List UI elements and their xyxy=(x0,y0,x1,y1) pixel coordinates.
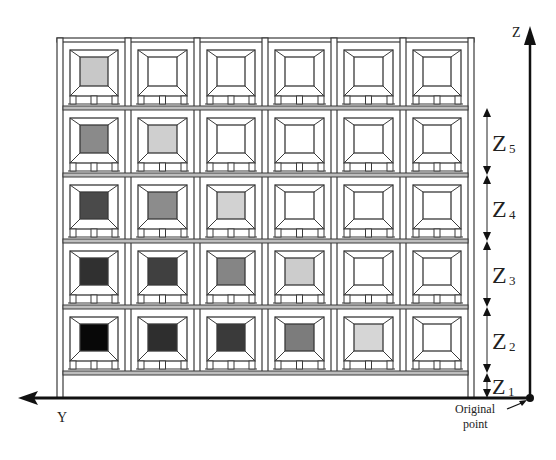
dimension-subscript: 5 xyxy=(509,141,516,156)
storage-rack xyxy=(57,38,474,398)
pallet-load xyxy=(411,317,463,369)
dimension-label: Z xyxy=(492,196,507,222)
rack-post xyxy=(331,38,337,373)
pallet-load xyxy=(205,50,257,104)
pallet-load xyxy=(411,50,463,104)
dimension-subscript: 2 xyxy=(509,339,516,354)
origin-point-icon xyxy=(526,394,534,402)
pallet-load xyxy=(68,317,120,369)
dimension-label: Z xyxy=(492,262,507,288)
rack-diagram: Y Z Original point Z5Z4Z3Z2Z1 xyxy=(0,0,556,460)
rack-shelf xyxy=(63,371,468,375)
dimension-arrow-down-icon xyxy=(483,232,491,241)
rack-post xyxy=(262,38,268,373)
pallet-load xyxy=(411,251,463,303)
dimension-arrow-up-icon xyxy=(483,307,491,316)
pallet-load xyxy=(342,317,395,369)
pallet-load xyxy=(205,251,257,303)
rack-shelf xyxy=(63,239,468,243)
dimension-subscript: 1 xyxy=(508,384,515,399)
y-axis-label: Y xyxy=(57,410,67,425)
pallet-load xyxy=(136,251,189,303)
pallet-load xyxy=(68,50,120,104)
rack-post xyxy=(468,38,474,398)
pallet-load xyxy=(136,317,189,369)
pallet-load xyxy=(273,50,326,104)
dimension-arrow-down-icon xyxy=(483,166,491,175)
origin-label-line1: Original xyxy=(455,402,496,416)
pallet-load xyxy=(68,251,120,303)
pallet-load xyxy=(411,185,463,237)
origin-label-line2: point xyxy=(463,417,488,431)
pallet-load xyxy=(273,317,326,369)
pallet-load xyxy=(68,118,120,171)
rack-shelf xyxy=(63,305,468,309)
origin-annotation: Original point xyxy=(455,400,527,431)
rack-post xyxy=(400,38,406,373)
z-axis: Z xyxy=(512,25,536,402)
dimension-arrow-down-icon xyxy=(483,298,491,307)
dimension-arrow-up-icon xyxy=(483,241,491,250)
pallet-load xyxy=(411,118,463,171)
height-dimensions: Z5Z4Z3Z2Z1 xyxy=(483,108,516,399)
z-axis-arrow-icon xyxy=(524,26,536,45)
dimension-arrow-down-icon xyxy=(483,364,491,373)
rack-post xyxy=(57,38,63,398)
z-axis-label: Z xyxy=(512,25,521,40)
pallet-load xyxy=(136,185,189,237)
pallet-load xyxy=(342,251,395,303)
pallet-load xyxy=(342,50,395,104)
dimension-arrow-up-icon xyxy=(483,175,491,184)
rack-shelf xyxy=(63,106,468,110)
dimension-label: Z xyxy=(492,328,507,354)
rack-post xyxy=(194,38,200,373)
pallet-load xyxy=(342,118,395,171)
diagram-canvas: Y Z Original point Z5Z4Z3Z2Z1 xyxy=(0,0,556,460)
pallet-load xyxy=(342,185,395,237)
pallet-load xyxy=(273,185,326,237)
dimension-arrow-up-icon xyxy=(483,108,491,117)
rack-shelf xyxy=(63,173,468,177)
dimension-label: Z xyxy=(492,374,505,399)
dimension-subscript: 3 xyxy=(509,273,516,288)
pallet-load xyxy=(205,317,257,369)
dimension-subscript: 4 xyxy=(509,207,516,222)
pallet-load xyxy=(68,185,120,237)
pallet-load xyxy=(273,118,326,171)
pallet-load xyxy=(273,251,326,303)
pallet-load xyxy=(205,185,257,237)
dimension-label: Z xyxy=(492,130,507,156)
pallet-load xyxy=(136,50,189,104)
dimension-arrow-up-icon xyxy=(483,373,491,382)
pallet-load xyxy=(205,118,257,171)
rack-post xyxy=(125,38,131,373)
pallet-load xyxy=(136,118,189,171)
